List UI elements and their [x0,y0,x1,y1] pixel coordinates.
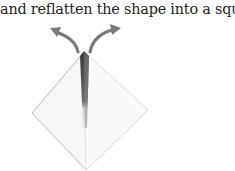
origami-diagram [0,0,235,171]
arrow-right-icon [90,24,121,52]
arrow-left-icon [50,27,78,52]
paper-diamond [32,52,148,170]
